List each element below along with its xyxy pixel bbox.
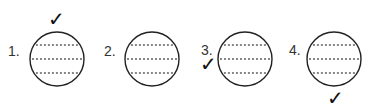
checkmark-icon: ✓ xyxy=(327,88,344,108)
dashed-line-circle xyxy=(216,30,274,88)
item-number-label: 1. xyxy=(8,44,20,58)
item-number-label: 2. xyxy=(104,44,116,58)
checkmark-icon: ✓ xyxy=(48,9,65,29)
dashed-line-circle xyxy=(123,30,181,88)
checkmark-icon: ✓ xyxy=(200,54,217,74)
dashed-line-circle xyxy=(28,30,86,88)
item-number-label: 4. xyxy=(289,43,301,57)
dashed-line-circle xyxy=(305,30,363,88)
